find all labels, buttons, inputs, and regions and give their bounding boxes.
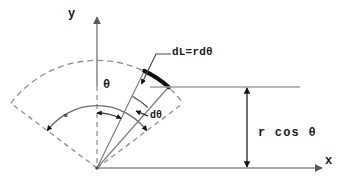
alpha-angle-label: ∝ <box>63 112 68 120</box>
dl-element-label: dL=rdθ <box>172 47 213 58</box>
x-axis-label: x <box>325 155 332 167</box>
theta-angle-arc <box>97 113 121 119</box>
geometry-diagram: y x dL=rdθ r cos θ θ dθ ∝ <box>0 0 348 187</box>
height-label: r cos θ <box>258 127 317 139</box>
radius-at-theta-plus-dtheta <box>97 87 169 168</box>
origin-vertex <box>95 166 99 170</box>
diagram-canvas <box>0 0 348 187</box>
dtheta-angle-label: dθ <box>150 111 162 121</box>
y-axis-label: y <box>68 8 75 20</box>
dtheta-angle-arc <box>133 97 148 108</box>
theta-angle-label: θ <box>103 79 110 91</box>
dl-arc-element <box>144 71 168 87</box>
sector-left-radius <box>11 103 97 168</box>
